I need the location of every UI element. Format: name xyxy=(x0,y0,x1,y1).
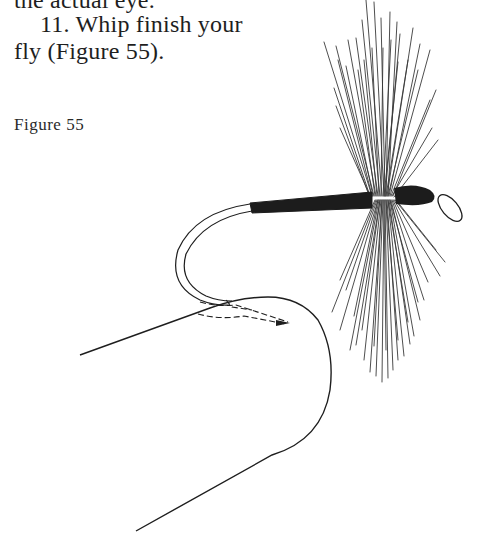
figure-55-illustration xyxy=(0,0,493,543)
whip-finish-loop-icon xyxy=(80,297,331,531)
book-page: the actual eye. 11. Whip finish your fly… xyxy=(0,0,493,543)
thread-body-icon xyxy=(250,192,372,213)
fly-head-icon xyxy=(394,185,435,205)
hackle-lower-icon xyxy=(332,200,445,382)
hook-eye-icon xyxy=(434,191,467,226)
hook-bend-icon xyxy=(176,204,252,305)
hackle-upper-icon xyxy=(324,0,438,198)
